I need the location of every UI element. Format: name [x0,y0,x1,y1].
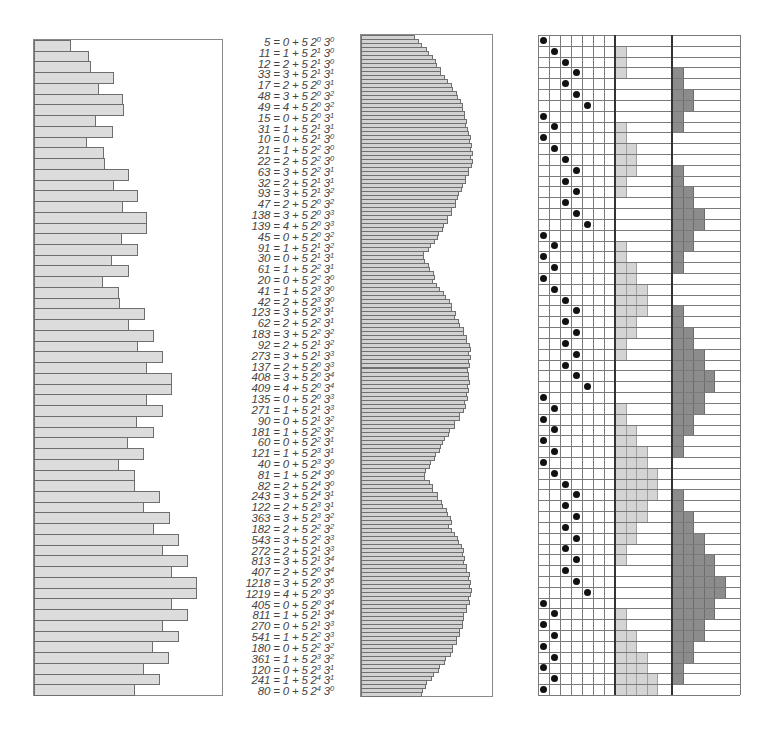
power-of-three: 3 [330,533,334,542]
grid-row-line [538,46,740,47]
power-three-cell [684,588,695,598]
grid-col-line [582,35,583,695]
offset-dot [562,524,569,531]
power-of-three: 1 [330,122,334,131]
power-of-two: 3 [317,663,321,672]
power-three-cell [684,198,695,208]
offset-dot [551,286,558,293]
power-of-two: 0 [317,208,321,217]
power-three-cell [705,382,716,392]
grid-row-line [538,403,740,404]
power-of-two: 0 [317,35,321,44]
power-three-cell [705,555,716,565]
offset-dot [562,362,569,369]
power-three-cell [684,187,695,197]
power-three-cell [673,577,684,587]
power-three-cell [673,404,684,414]
power-of-three: 1 [330,67,334,76]
power-three-cell [673,166,684,176]
power-two-cell [637,480,648,490]
offset-dot [573,556,580,563]
power-three-cell [684,577,695,587]
grid-col-line [549,35,550,695]
power-three-cell [694,599,705,609]
offset-dot [573,491,580,498]
power-three-cell [673,317,684,327]
log-bar-chart-dense [360,34,493,697]
power-two-cell [627,285,638,295]
power-two-cell [627,664,638,674]
power-of-two: 0 [317,360,321,369]
equation-list: 5 = 0 + 5 20 3011 = 1 + 5 21 3012 = 2 + … [224,37,334,697]
power-three-cell [684,415,695,425]
power-two-cell [627,296,638,306]
power-of-two: 1 [317,403,321,412]
power-of-two: 2 [317,154,321,163]
power-two-cell [616,469,627,479]
power-three-cell [673,512,684,522]
offset-dot [562,567,569,574]
power-two-cell [616,187,627,197]
offset-dot [540,275,547,282]
power-three-cell [684,653,695,663]
power-of-three: 0 [330,479,334,488]
power-three-cell [673,361,684,371]
power-two-cell [616,653,627,663]
offset-dot [562,156,569,163]
power-of-two: 1 [317,176,321,185]
power-two-cell [616,480,627,490]
power-two-cell [627,317,638,327]
power-of-three: 1 [330,489,334,498]
power-three-cell [673,501,684,511]
power-two-cell [616,350,627,360]
power-two-cell [627,155,638,165]
power-two-cell [616,296,627,306]
grid-col-line [604,35,605,695]
grid-row-line [538,327,740,328]
power-of-two: 2 [317,630,321,639]
power-two-cell [616,177,627,187]
offset-dot [573,535,580,542]
power-of-two: 2 [317,165,321,174]
power-two-cell [627,501,638,511]
power-three-cell [673,252,684,262]
equation-offset: 0 [283,685,289,697]
power-of-two: 0 [317,576,321,585]
power-of-three: 1 [330,663,334,672]
offset-dot [551,448,558,455]
power-of-two: 4 [317,479,321,488]
power-three-cell [694,361,705,371]
power-three-cell [673,426,684,436]
power-three-cell [705,566,716,576]
power-two-cell [616,490,627,500]
power-of-two: 1 [317,46,321,55]
power-three-cell [673,339,684,349]
power-two-cell [616,674,627,684]
power-three-cell [694,382,705,392]
offset-dot [573,167,580,174]
power-of-three: 3 [330,349,334,358]
offset-dot [562,59,569,66]
grid-row-line [538,78,740,79]
power-three-cell [673,566,684,576]
power-three-cell [715,577,726,587]
power-of-two: 1 [317,349,321,358]
power-of-three: 3 [330,360,334,369]
power-three-cell [684,620,695,630]
power-two-cell [616,555,627,565]
power-two-cell [627,426,638,436]
power-of-two: 0 [317,392,321,401]
grid-row-line [538,208,740,209]
grid-col-line [538,35,539,695]
power-of-two: 1 [317,186,321,195]
power-three-cell [673,101,684,111]
power-two-cell [637,490,648,500]
power-two-cell [637,458,648,468]
power-three-cell [684,101,695,111]
power-three-cell [684,350,695,360]
power-three-cell [684,231,695,241]
power-two-cell [627,469,638,479]
power-three-cell [694,220,705,230]
power-of-three: 5 [330,576,334,585]
power-two-cell [616,685,627,695]
